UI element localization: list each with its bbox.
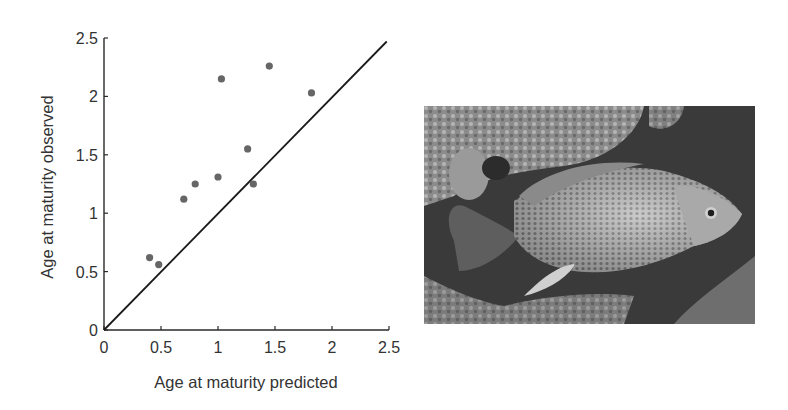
data-point	[214, 173, 221, 180]
y-tick-label: 2	[89, 88, 98, 105]
rock-blob	[449, 148, 489, 200]
y-tick-label: 0	[89, 322, 98, 339]
data-point	[250, 180, 257, 187]
data-points	[146, 62, 315, 268]
fish-photo	[424, 106, 755, 324]
one-to-one-line	[104, 42, 387, 330]
data-point	[146, 254, 153, 261]
x-tick-label: 2.5	[378, 339, 400, 356]
data-point	[155, 261, 162, 268]
x-tick-label: 0.5	[150, 339, 172, 356]
data-point	[266, 62, 273, 69]
y-tick-label: 0.5	[76, 264, 98, 281]
x-tick-label: 2	[328, 339, 337, 356]
y-tick-label: 2.5	[76, 30, 98, 47]
x-tick-label: 1.5	[264, 339, 286, 356]
x-tick-label: 1	[214, 339, 223, 356]
x-tick-label: 0	[100, 339, 109, 356]
data-point	[244, 145, 251, 152]
identity-line	[104, 42, 387, 330]
y-tick-label: 1	[89, 205, 98, 222]
data-point	[308, 89, 315, 96]
data-point	[218, 75, 225, 82]
x-axis-label: Age at maturity predicted	[154, 373, 337, 391]
y-axis-label: Age at maturity observed	[38, 95, 56, 278]
data-point	[192, 180, 199, 187]
data-point	[180, 196, 187, 203]
y-tick-label: 1.5	[76, 147, 98, 164]
rock-shadow	[482, 156, 510, 180]
fish-eye	[708, 210, 714, 216]
scatter-chart: 00.511.522.500.511.522.5 Age at maturity…	[0, 0, 420, 410]
